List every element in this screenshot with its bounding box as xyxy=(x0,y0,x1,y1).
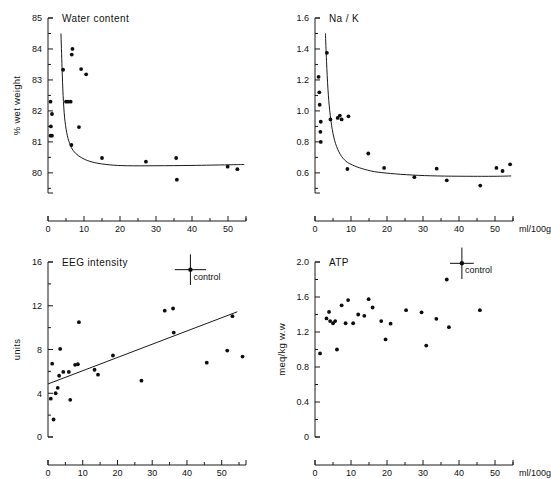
panel-title: Water content xyxy=(62,13,129,24)
data-point xyxy=(49,397,53,401)
data-point xyxy=(404,308,408,312)
data-point xyxy=(61,370,65,374)
data-point xyxy=(356,313,360,317)
x-tick-label: 40 xyxy=(187,224,197,234)
y-tick-label: 0 xyxy=(304,432,309,442)
y-tick-label: 16 xyxy=(32,257,42,267)
control-label: control xyxy=(465,265,492,275)
figure-panel-grid: 80818283848501020304050Water content% we… xyxy=(0,0,551,479)
chart-svg-bottom-right: 00.40.81.21.62.001020304050ml/100g/minAT… xyxy=(275,240,551,479)
data-point xyxy=(205,361,209,365)
data-point xyxy=(367,297,371,301)
control-label: control xyxy=(193,272,220,282)
x-tick-label: 10 xyxy=(78,468,88,478)
data-point xyxy=(50,362,54,366)
x-tick-label: 0 xyxy=(45,224,50,234)
data-point xyxy=(84,72,88,76)
x-tick-label: 20 xyxy=(112,468,122,478)
y-tick-label: 80 xyxy=(32,168,42,178)
panel-title: Na / K xyxy=(329,13,359,24)
x-tick-label: 20 xyxy=(115,224,125,234)
x-tick-label: 0 xyxy=(312,224,317,234)
data-point xyxy=(478,184,482,188)
data-point xyxy=(100,156,104,160)
x-tick-label: 30 xyxy=(147,468,157,478)
data-point xyxy=(58,347,62,351)
data-point xyxy=(318,352,322,356)
y-tick-label: 84 xyxy=(32,44,42,54)
chart-panel-bottom-left: 048121601020304050EEG intensityunitscont… xyxy=(0,240,276,479)
data-point xyxy=(241,355,245,359)
y-tick-label: 0.6 xyxy=(296,168,309,178)
data-point xyxy=(319,120,323,124)
data-point xyxy=(174,156,178,160)
data-point xyxy=(69,100,73,104)
data-point xyxy=(495,166,499,170)
data-point xyxy=(96,373,100,377)
x-tick-label: 30 xyxy=(418,224,428,234)
data-point xyxy=(52,418,56,422)
y-tick-label: 2.0 xyxy=(296,257,309,267)
x-axis-bottom-left xyxy=(48,460,246,465)
data-point xyxy=(49,100,53,104)
data-point xyxy=(340,118,344,122)
data-point xyxy=(68,398,72,402)
data-point xyxy=(144,160,148,164)
data-point xyxy=(54,391,58,395)
x-axis-bottom-right xyxy=(315,460,513,465)
data-point xyxy=(501,169,505,173)
data-points xyxy=(49,307,245,422)
data-points xyxy=(49,47,240,182)
y-tick-label: 1.0 xyxy=(296,106,309,116)
data-point xyxy=(175,178,179,182)
data-point xyxy=(362,314,366,318)
data-point xyxy=(478,308,482,312)
fitted-curve xyxy=(48,312,237,384)
x-tick-label: 30 xyxy=(418,468,428,478)
data-point xyxy=(420,310,424,314)
data-point xyxy=(333,319,337,323)
data-point xyxy=(76,362,80,366)
data-point xyxy=(327,310,331,314)
data-point xyxy=(351,321,355,325)
data-point xyxy=(335,348,339,352)
data-point xyxy=(338,114,342,118)
y-tick-label: 82 xyxy=(32,106,42,116)
data-point xyxy=(445,278,449,282)
x-tick-label: 30 xyxy=(151,224,161,234)
y-axis-title: % wet weight xyxy=(11,76,22,136)
x-tick-label: 40 xyxy=(182,468,192,478)
data-point xyxy=(57,374,61,378)
y-tick-label: 12 xyxy=(32,301,42,311)
data-point xyxy=(50,112,54,116)
data-point xyxy=(424,344,428,348)
fitted-curve xyxy=(61,33,244,165)
data-point xyxy=(171,307,175,311)
y-tick-label: 4 xyxy=(37,389,42,399)
data-point xyxy=(67,370,71,374)
y-tick-label: 1.4 xyxy=(296,44,309,54)
y-tick-label: 0 xyxy=(37,432,42,442)
x-tick-label: 10 xyxy=(346,224,356,234)
data-point xyxy=(172,331,176,335)
chart-panel-top-right: 0.60.81.01.21.41.601020304050ml/100g/min… xyxy=(275,0,551,240)
data-point xyxy=(346,167,350,171)
data-point xyxy=(163,309,167,313)
data-point xyxy=(70,143,74,147)
x-tick-label: 50 xyxy=(217,468,227,478)
y-axis-top-left xyxy=(48,18,53,193)
x-axis-unit-label: ml/100g/min xyxy=(519,224,551,234)
data-point xyxy=(235,167,239,171)
data-point xyxy=(111,354,115,358)
data-point xyxy=(77,125,81,129)
panel-title: ATP xyxy=(329,257,349,268)
y-tick-label: 0.8 xyxy=(296,362,309,372)
data-point xyxy=(79,67,83,71)
data-point xyxy=(329,118,333,122)
data-point xyxy=(318,103,322,107)
x-tick-label: 40 xyxy=(454,468,464,478)
x-tick-label: 50 xyxy=(490,468,500,478)
data-point xyxy=(347,114,351,118)
data-point xyxy=(371,306,375,310)
data-point xyxy=(435,167,439,171)
